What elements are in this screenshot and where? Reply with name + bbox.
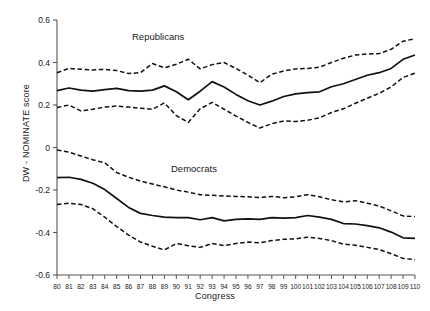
x-tick-label: 102 bbox=[314, 283, 325, 290]
x-tick-labels-group: 8081828384858687888990919293949596979899… bbox=[53, 283, 420, 290]
y-tick-label: 0 bbox=[45, 143, 50, 153]
x-tick-label: 104 bbox=[338, 283, 349, 290]
series-democrats-mean bbox=[57, 177, 415, 238]
x-tick-label: 103 bbox=[326, 283, 337, 290]
x-tick-label: 97 bbox=[256, 283, 264, 290]
x-tick-label: 88 bbox=[149, 283, 157, 290]
x-tick-label: 105 bbox=[350, 283, 361, 290]
y-axis-title: DW - NOMINATE score bbox=[21, 63, 31, 203]
y-tick-label: -0.2 bbox=[35, 185, 50, 195]
axis-ticks-group bbox=[53, 20, 415, 279]
x-tick-label: 106 bbox=[362, 283, 373, 290]
x-tick-label: 108 bbox=[386, 283, 397, 290]
y-tick-label: 0.2 bbox=[38, 100, 50, 110]
x-tick-label: 101 bbox=[302, 283, 313, 290]
x-tick-label: 80 bbox=[53, 283, 61, 290]
x-tick-label: 98 bbox=[268, 283, 276, 290]
axes-group bbox=[57, 20, 415, 275]
x-tick-label: 99 bbox=[280, 283, 288, 290]
y-tick-labels-group: 0.60.40.20-0.2-0.4-0.6 bbox=[35, 15, 50, 280]
x-tick-label: 107 bbox=[374, 283, 385, 290]
y-tick-label: -0.4 bbox=[35, 228, 50, 238]
x-tick-label: 110 bbox=[410, 283, 421, 290]
x-tick-label: 89 bbox=[161, 283, 169, 290]
y-tick-label: -0.6 bbox=[35, 270, 50, 280]
x-tick-label: 84 bbox=[101, 283, 109, 290]
x-tick-label: 83 bbox=[89, 283, 97, 290]
x-tick-label: 94 bbox=[220, 283, 228, 290]
x-tick-label: 100 bbox=[290, 283, 301, 290]
x-tick-label: 109 bbox=[398, 283, 409, 290]
x-tick-label: 95 bbox=[232, 283, 240, 290]
x-tick-label: 82 bbox=[77, 283, 85, 290]
y-tick-label: 0.4 bbox=[38, 58, 50, 68]
series-democrats-lower-bound bbox=[57, 203, 415, 260]
x-tick-label: 92 bbox=[197, 283, 205, 290]
x-tick-label: 81 bbox=[65, 283, 73, 290]
x-tick-label: 91 bbox=[185, 283, 193, 290]
series-label-democrats: Democrats bbox=[171, 163, 217, 174]
chart-plot-area: 0.60.40.20-0.2-0.4-0.6 80818283848586878… bbox=[0, 0, 430, 311]
data-series-group bbox=[57, 39, 415, 260]
x-tick-label: 86 bbox=[125, 283, 133, 290]
x-tick-label: 96 bbox=[244, 283, 252, 290]
x-tick-label: 93 bbox=[208, 283, 216, 290]
x-tick-label: 87 bbox=[137, 283, 145, 290]
x-axis-title: Congress bbox=[0, 291, 430, 301]
y-tick-label: 0.6 bbox=[38, 15, 50, 25]
x-tick-label: 85 bbox=[113, 283, 121, 290]
series-label-republicans: Republicans bbox=[132, 31, 184, 42]
series-republicans-upper-bound bbox=[57, 39, 415, 83]
series-republicans-lower-bound bbox=[57, 73, 415, 128]
series-democrats-upper-bound bbox=[57, 150, 415, 217]
x-tick-label: 90 bbox=[173, 283, 181, 290]
dw-nominate-chart: 0.60.40.20-0.2-0.4-0.6 80818283848586878… bbox=[0, 0, 430, 311]
series-republicans-mean bbox=[57, 55, 415, 105]
